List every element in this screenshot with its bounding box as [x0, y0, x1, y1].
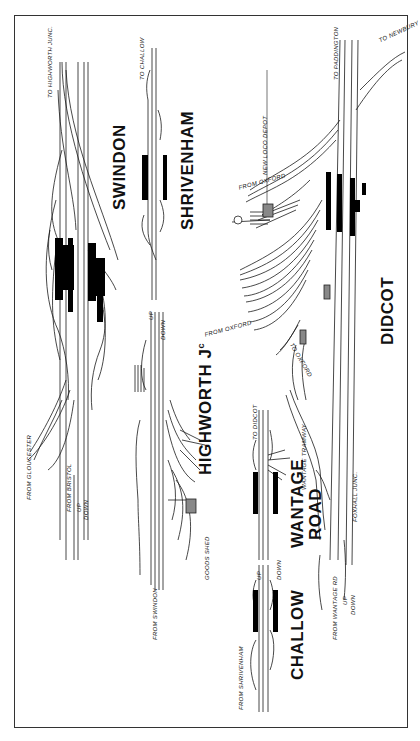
station-name-shrivenham: SHRIVENHAM	[178, 111, 198, 230]
shrivenham-platforms	[142, 155, 167, 200]
label-from-bristol: FROM BRISTOL	[66, 464, 72, 513]
label-from-swindon: FROM SWINDON	[152, 588, 158, 640]
turntable-icon	[234, 216, 242, 224]
label-to-didcot: TO DIDCOT	[252, 404, 258, 440]
station-name-swindon: SWINDON	[110, 124, 130, 210]
challow-tracks	[251, 565, 274, 712]
label-new-loco-depot: NEW LOCO DEPOT	[262, 116, 268, 175]
label-from-shrivenham: FROM SHRIVENHAM	[238, 646, 244, 710]
didcot-platforms	[326, 172, 366, 236]
label-from-wantage-rd: FROM WANTAGE RD	[332, 576, 338, 640]
loco-depot-icon	[263, 204, 273, 217]
label-to-challow: TO CHALLOW	[139, 37, 145, 80]
label-up-challow: UP	[256, 571, 262, 580]
goods-shed-icon	[186, 499, 196, 513]
didcot-shed-icon	[324, 285, 330, 299]
challow-platforms	[253, 590, 278, 632]
swindon-platforms	[55, 238, 105, 322]
station-name-wantage-road-line2: ROAD	[306, 488, 326, 540]
label-wantage-tramway: WANTAGE TRAMWAY	[301, 424, 307, 490]
label-down-challow: DOWN	[276, 560, 282, 580]
wantage-road-tracks	[253, 410, 290, 560]
label-down-highworth: DOWN	[160, 320, 166, 340]
highworth-tracks	[135, 312, 205, 590]
station-name-didcot: DIDCOT	[378, 277, 398, 345]
label-up-swindon: UP	[76, 503, 82, 512]
label-goods-shed: GOODS SHED	[204, 536, 210, 580]
didcot-shed-icon-2	[300, 330, 306, 344]
label-down-swindon: DOWN	[83, 500, 89, 520]
wantage-road-platforms	[253, 472, 278, 514]
label-up-didcot: UP	[342, 596, 348, 605]
label-up-shrivenham: UP	[148, 311, 154, 320]
station-name-highworth: HIGHWORTH Jc	[196, 343, 216, 475]
station-name-challow: CHALLOW	[288, 590, 308, 680]
label-to-paddington: TO PADDINGTON	[333, 27, 339, 80]
label-down-didcot: DOWN	[350, 595, 356, 615]
label-from-gloucester: FROM GLOUCESTER	[26, 435, 32, 500]
label-foxhall-junc: FOXHALL JUNC.	[352, 472, 358, 522]
label-to-highworth-junc: TO HIGHWORTH JUNC.	[47, 26, 53, 98]
